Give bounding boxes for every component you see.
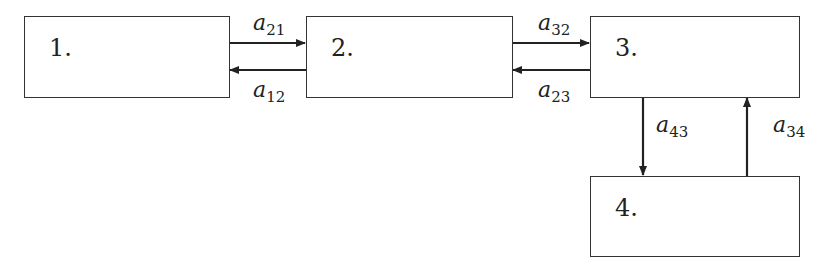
edge-label-a12: a12 xyxy=(253,77,285,106)
node-label: 1. xyxy=(49,34,72,62)
edge-label-a21: a21 xyxy=(253,10,285,39)
node-3: 3. xyxy=(590,16,800,98)
edge-label-a34: a34 xyxy=(773,112,805,141)
node-1: 1. xyxy=(24,16,230,98)
edge-label-a43: a43 xyxy=(656,112,688,141)
edge-label-a32: a32 xyxy=(538,10,570,39)
node-4: 4. xyxy=(590,176,800,257)
node-label: 4. xyxy=(615,194,638,222)
edge-label-a23: a23 xyxy=(538,77,570,106)
node-label: 2. xyxy=(331,34,354,62)
node-2: 2. xyxy=(306,16,513,98)
node-label: 3. xyxy=(615,34,638,62)
